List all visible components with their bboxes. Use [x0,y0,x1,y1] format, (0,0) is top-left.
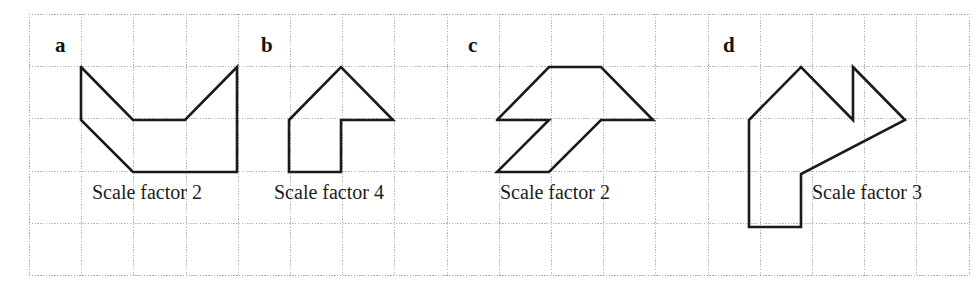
shape-letter-label-b: b [261,33,273,57]
scale-factor-caption-d: Scale factor 3 [812,181,922,203]
scale-factor-caption-b: Scale factor 4 [274,181,384,203]
shape-letter-label-c: c [468,33,477,57]
worksheet-canvas: aScale factor 2bScale factor 4cScale fac… [0,0,976,297]
dotted-grid [29,14,970,276]
scale-factor-worksheet-figure: aScale factor 2bScale factor 4cScale fac… [0,0,976,297]
shape-outline-b [289,67,393,172]
shapes-layer [81,67,905,227]
shape-letter-label-d: d [723,33,735,57]
scale-factor-caption-a: Scale factor 2 [92,181,202,203]
shape-outline-d [749,67,905,227]
shape-outline-a [81,67,237,172]
shape-letter-label-a: a [55,33,66,57]
shape-outline-c [497,67,653,172]
scale-factor-caption-c: Scale factor 2 [500,181,610,203]
